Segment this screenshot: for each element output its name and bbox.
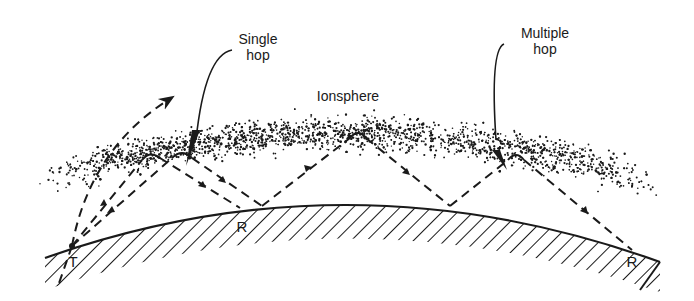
ionosphere-label: Ionsphere	[312, 88, 384, 104]
transmitter-point	[69, 243, 75, 249]
multi-hop-up-3	[450, 160, 508, 206]
arrow-down-3	[580, 206, 588, 214]
ionosphere-propagation-diagram	[0, 0, 694, 301]
arrow-up-multi	[107, 206, 115, 213]
receiver-single-label: R	[235, 219, 249, 235]
multiple-hop-label: Multiple hop	[505, 25, 585, 57]
arrow-up-single	[100, 199, 107, 206]
ionosphere-layer	[39, 108, 657, 196]
receiver-multiple-label: R	[625, 254, 639, 270]
transmitter-label: T	[66, 254, 80, 270]
earth-hatching	[45, 205, 660, 292]
single-hop-ray-down	[160, 158, 240, 208]
multiple-hop-leader	[494, 44, 504, 140]
single-hop-label: Single hop	[226, 31, 290, 63]
